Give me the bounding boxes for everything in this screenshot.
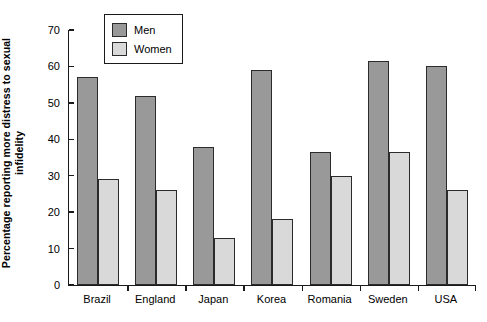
bar-romania-women [331,176,352,285]
bar-group [127,30,185,285]
bar-group [243,30,301,285]
bar-brazil-women [98,179,119,285]
x-axis-label-korea: Korea [242,288,300,305]
bar-groups [69,30,476,285]
y-axis-title-line-1: Percentage reporting more distress to se… [0,38,12,268]
legend-swatch-men-icon [112,23,127,37]
plot-area: 010203040506070 [68,30,476,286]
x-axis-label-england: England [126,288,184,305]
y-axis-tick-label: 70 [48,22,60,38]
bar-sweden-men [368,61,389,285]
y-axis-tick-label: 50 [48,95,60,111]
x-axis-label-brazil: Brazil [68,288,126,305]
y-axis-tick-label: 40 [48,131,60,147]
bar-group [302,30,360,285]
y-axis-title-wrapper: Percentage reporting more distress to se… [0,0,40,300]
bar-group [418,30,476,285]
bar-romania-men [310,152,331,285]
bar-korea-women [272,219,293,285]
y-axis-title-line-2: infidelity [13,131,25,175]
bar-sweden-women [389,152,410,285]
y-axis-tick-label: 10 [48,241,60,257]
bar-england-men [135,96,156,285]
legend-label-men: Men [134,24,155,36]
bar-group [360,30,418,285]
legend-swatch-women-icon [112,42,127,56]
bar-brazil-men [77,77,98,285]
bar-korea-men [251,70,272,285]
legend-item-women: Women [112,39,172,58]
y-axis-tick-label: 60 [48,58,60,74]
x-axis-label-sweden: Sweden [359,288,417,305]
bar-group [185,30,243,285]
chart-legend: Men Women [104,14,183,64]
legend-item-men: Men [112,20,172,39]
bar-japan-women [214,238,235,285]
y-axis-title: Percentage reporting more distress to se… [0,18,26,288]
bar-group [69,30,127,285]
y-axis-tick-label: 20 [48,204,60,220]
x-axis-labels: BrazilEnglandJapanKoreaRomaniaSwedenUSA [68,288,475,305]
y-axis-tick-label: 30 [48,168,60,184]
x-axis-label-japan: Japan [184,288,242,305]
bar-usa-women [447,190,468,285]
bar-usa-men [426,66,447,285]
x-axis-label-romania: Romania [301,288,359,305]
legend-label-women: Women [134,43,172,55]
x-axis-label-usa: USA [417,288,475,305]
y-axis-tick-label: 0 [54,277,60,293]
bar-england-women [156,190,177,285]
bar-chart: Percentage reporting more distress to se… [0,0,487,322]
bar-japan-men [193,147,214,285]
